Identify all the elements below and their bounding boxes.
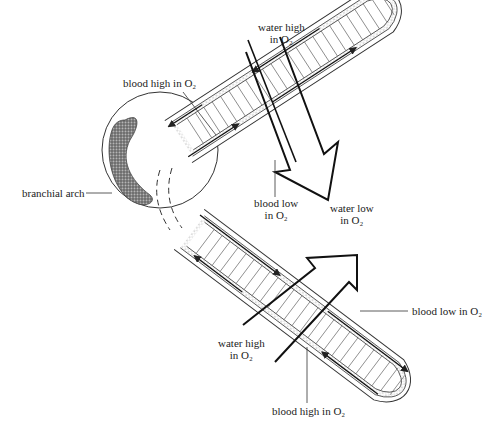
label-line: in O₂ (258, 33, 305, 45)
label-blood-high-top: blood high in O₂ (123, 77, 196, 89)
label-line: in O₂ (254, 209, 298, 221)
label-blood-low-right: blood low in O₂ (412, 305, 482, 317)
diagram-drawing (0, 0, 503, 434)
label-blood-high-bottom: blood high in O₂ (272, 405, 345, 417)
label-line: water high (258, 21, 305, 33)
label-line: blood low (254, 197, 298, 209)
label-water-high-top: water high in O₂ (258, 21, 305, 45)
gill-diagram: water high in O₂ blood high in O₂ branch… (0, 0, 503, 434)
label-blood-low-mid: blood low in O₂ (254, 197, 298, 221)
label-line: in O₂ (218, 349, 265, 361)
label-line: in O₂ (330, 214, 374, 226)
label-line: water low (330, 202, 374, 214)
label-branchial-arch: branchial arch (22, 187, 85, 199)
label-line: water high (218, 337, 265, 349)
label-water-high-bottom: water high in O₂ (218, 337, 265, 361)
label-water-low: water low in O₂ (330, 202, 374, 226)
